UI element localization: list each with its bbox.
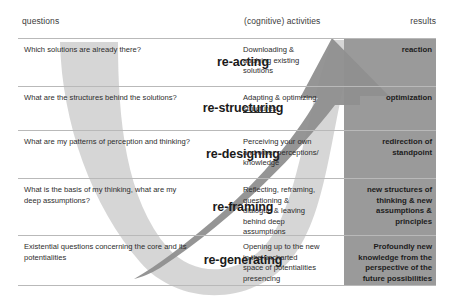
activity-line: space of potentialities bbox=[243, 263, 343, 274]
table-row: Existential questions concerning the cor… bbox=[18, 235, 436, 285]
activity-line: applying existing bbox=[243, 56, 343, 67]
diagram-canvas: questions (cognitive) activities results… bbox=[0, 0, 453, 305]
result-cell: optimization bbox=[344, 93, 432, 104]
table-bottom-divider bbox=[18, 285, 436, 286]
result-cell: redirection of standpoint bbox=[344, 137, 432, 158]
process-table: Which solutions are already there?re-act… bbox=[18, 38, 436, 285]
table-row: What is the basis of my thinking, what a… bbox=[18, 178, 436, 235]
activity-cell: Perceiving your ownand other perceptions… bbox=[243, 137, 343, 169]
column-header-questions: questions bbox=[22, 16, 59, 26]
question-cell: What are my patterns of perception and t… bbox=[24, 137, 192, 148]
activity-line: questioning & bbox=[243, 196, 343, 207]
activity-cell: Opening up to the newin the unchartedspa… bbox=[243, 242, 343, 284]
activity-line: Opening up to the new bbox=[243, 242, 343, 253]
question-cell: Existential questions concerning the cor… bbox=[24, 242, 192, 263]
activity-line: behind deep bbox=[243, 217, 343, 228]
table-row: What are my patterns of perception and t… bbox=[18, 130, 436, 178]
activity-line: presencing bbox=[243, 274, 343, 285]
activity-cell: Adapting & optimizingstructures bbox=[243, 93, 343, 114]
activity-cell: Reflecting, reframing,questioning &dialo… bbox=[243, 185, 343, 238]
question-cell: What are the structures behind the solut… bbox=[24, 93, 192, 104]
activity-cell: Downloading &applying existingsolutions bbox=[243, 45, 343, 77]
result-cell: new structures of thinking & new assumpt… bbox=[344, 185, 432, 227]
activity-line: in the uncharted bbox=[243, 253, 343, 264]
activity-line: Perceiving your own bbox=[243, 137, 343, 148]
activity-line: Reflecting, reframing, bbox=[243, 185, 343, 196]
column-header-results: results bbox=[344, 16, 436, 26]
activity-line: knowledge bbox=[243, 158, 343, 169]
activity-line: Adapting & optimizing bbox=[243, 93, 343, 104]
column-header-activities: (cognitive) activities bbox=[244, 16, 320, 26]
activity-line: Downloading & bbox=[243, 45, 343, 56]
activity-line: dialogue & leaving bbox=[243, 206, 343, 217]
question-cell: What is the basis of my thinking, what a… bbox=[24, 185, 192, 206]
activity-line: and other perceptions/ bbox=[243, 148, 343, 159]
activity-line: solutions bbox=[243, 66, 343, 77]
table-row: What are the structures behind the solut… bbox=[18, 86, 436, 130]
result-cell: Profoundly new knowledge from the perspe… bbox=[344, 242, 432, 284]
activity-line: structures bbox=[243, 104, 343, 115]
table-row: Which solutions are already there?re-act… bbox=[18, 38, 436, 86]
question-cell: Which solutions are already there? bbox=[24, 45, 192, 56]
result-cell: reaction bbox=[344, 45, 432, 56]
